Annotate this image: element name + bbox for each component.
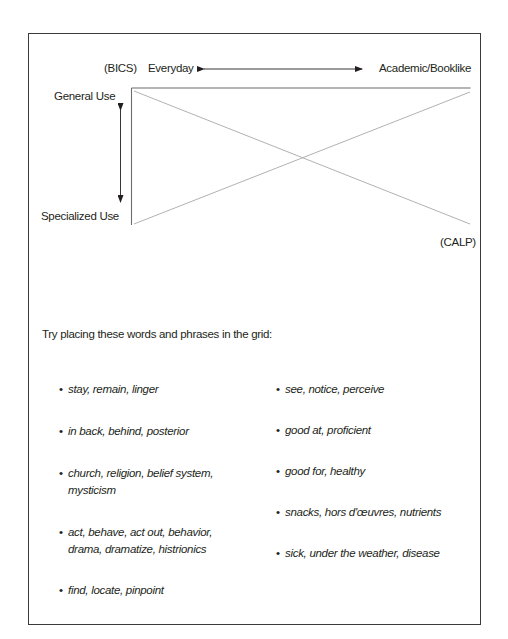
word-list-left: •stay, remain, linger •in back, behind, …	[58, 381, 268, 599]
list-item: •in back, behind, posterior	[58, 423, 268, 440]
bullet-icon: •	[59, 465, 63, 482]
list-item-text: act, behave, act out, behavior, drama, d…	[68, 526, 212, 555]
list-item: •stay, remain, linger	[58, 381, 268, 398]
bullet-icon: •	[59, 582, 63, 599]
list-item: •sick, under the weather, disease	[275, 545, 475, 562]
instructions-prompt: Try placing these words and phrases in t…	[42, 328, 272, 340]
general-use-label: General Use	[54, 90, 115, 103]
list-item: •good for, healthy	[275, 463, 475, 480]
everyday-label: Everyday	[148, 62, 194, 75]
bullet-icon: •	[276, 463, 280, 480]
list-item-text: in back, behind, posterior	[68, 425, 189, 437]
bics-label: (BICS)	[104, 62, 137, 75]
list-item: •find, locate, pinpoint	[58, 582, 268, 599]
bullet-icon: •	[276, 545, 280, 562]
bullet-icon: •	[276, 422, 280, 439]
specialized-use-label: Specialized Use	[41, 210, 119, 223]
list-item: •see, notice, perceive	[275, 381, 475, 398]
word-list-right: •see, notice, perceive •good at, profici…	[275, 381, 475, 586]
bullet-icon: •	[59, 381, 63, 398]
bullet-icon: •	[59, 524, 63, 541]
calp-label: (CALP)	[440, 236, 476, 249]
list-item-text: good for, healthy	[285, 465, 365, 477]
list-item-text: good at, proficient	[285, 424, 371, 436]
list-item-text: find, locate, pinpoint	[68, 584, 164, 596]
bullet-icon: •	[276, 504, 280, 521]
list-item: •good at, proficient	[275, 422, 475, 439]
list-item-text: snacks, hors d'œuvres, nutrients	[285, 506, 441, 518]
list-item-text: church, religion, belief system, mystici…	[68, 467, 213, 496]
list-item-text: stay, remain, linger	[68, 383, 158, 395]
list-item-text: see, notice, perceive	[285, 383, 384, 395]
academic-label: Academic/Booklike	[379, 62, 471, 75]
bullet-icon: •	[59, 423, 63, 440]
list-item: •act, behave, act out, behavior, drama, …	[58, 524, 238, 558]
list-item: •church, religion, belief system, mystic…	[58, 465, 243, 499]
list-item-text: sick, under the weather, disease	[285, 547, 440, 559]
list-item: •snacks, hors d'œuvres, nutrients	[275, 504, 475, 521]
bullet-icon: •	[276, 381, 280, 398]
